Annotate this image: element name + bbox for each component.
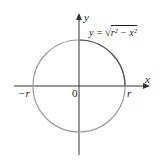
equation-lhs: y =: [89, 27, 105, 38]
sqrt-icon: √: [105, 27, 111, 38]
x-axis-label: x: [145, 74, 150, 85]
upper-semicircle: [79, 40, 125, 86]
y-axis-arrow-icon: [76, 13, 82, 20]
equation: y = √r² − x²: [89, 28, 137, 38]
origin-label: 0: [72, 88, 78, 99]
right-intercept-label: r: [127, 88, 131, 99]
equation-radicand: r² − x²: [111, 25, 137, 38]
y-axis-label: y: [84, 12, 89, 23]
circle-diagram: [0, 0, 162, 162]
left-intercept-label: −r: [18, 88, 30, 99]
